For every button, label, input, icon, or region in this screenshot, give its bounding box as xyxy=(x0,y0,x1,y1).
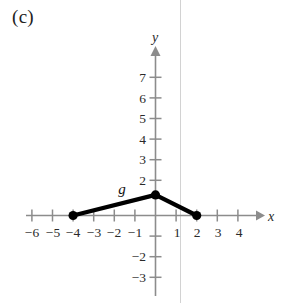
y-tick-label-6: 6 xyxy=(139,91,146,106)
data-point-right-endpoint xyxy=(192,211,201,220)
y-axis-label: y xyxy=(150,30,159,45)
x-axis-tick-labels: −6 −5 −4 −3 −2 −1 1 2 3 4 xyxy=(25,225,243,240)
y-tick-label--2: −2 xyxy=(132,249,146,264)
y-tick-label-3: 3 xyxy=(139,152,146,167)
x-tick-label--3: −3 xyxy=(87,225,102,240)
y-tick-label--3: −3 xyxy=(132,270,147,285)
x-tick-label-3: 3 xyxy=(215,225,222,240)
x-tick-label-1: 1 xyxy=(174,225,181,240)
curve-label-g: g xyxy=(118,181,126,197)
coordinate-plane-graph: −6 −5 −4 −3 −2 −1 1 2 3 4 7 6 5 4 3 2 −2… xyxy=(0,0,287,303)
y-tick-label-4: 4 xyxy=(139,132,146,147)
x-axis-label: x xyxy=(267,209,275,224)
x-tick-label--1: −1 xyxy=(128,225,142,240)
y-tick-label-7: 7 xyxy=(139,70,146,85)
y-tick-label-2: 2 xyxy=(139,173,146,188)
y-axis-arrowhead xyxy=(151,46,161,56)
x-tick-label-2: 2 xyxy=(194,225,201,240)
x-axis-arrowhead xyxy=(256,211,265,221)
x-tick-label--2: −2 xyxy=(107,225,121,240)
y-axis-tick-labels: 7 6 5 4 3 2 −2 −3 xyxy=(132,70,147,285)
x-tick-label-4: 4 xyxy=(236,225,243,240)
x-tick-label--4: −4 xyxy=(66,225,81,240)
figure-container: (c) xyxy=(0,0,287,303)
data-point-vertex xyxy=(151,190,160,199)
data-point-left-endpoint xyxy=(69,211,78,220)
x-tick-label--6: −6 xyxy=(25,225,40,240)
y-tick-label-5: 5 xyxy=(139,111,146,126)
x-tick-label--5: −5 xyxy=(46,225,61,240)
